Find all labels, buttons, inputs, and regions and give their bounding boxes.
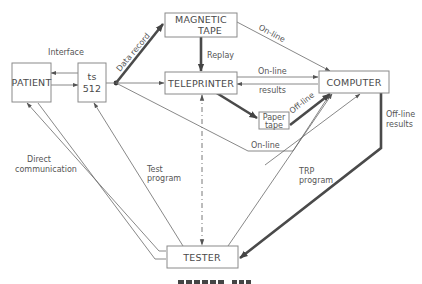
label-replay: Replay bbox=[207, 51, 234, 60]
label-online-tape: On-line bbox=[257, 23, 287, 44]
node-magnetic-tape: MAGNETIC TAPE bbox=[165, 13, 237, 37]
label-trp-program: program bbox=[299, 176, 333, 185]
edge-labels: Interface Data record Replay On-line On-… bbox=[15, 23, 415, 185]
figure-caption-clipped bbox=[178, 280, 251, 284]
node-label: COMPUTER bbox=[327, 77, 382, 88]
edge-tape-online bbox=[237, 22, 330, 71]
label-test: Test bbox=[146, 165, 163, 174]
label-offline-results: Off-line bbox=[386, 110, 415, 119]
node-label: tape bbox=[265, 121, 283, 130]
label-data-record: Data record bbox=[115, 31, 152, 73]
node-computer: COMPUTER bbox=[319, 71, 389, 93]
node-label: PATIENT bbox=[12, 77, 52, 88]
node-label: MAGNETIC bbox=[175, 14, 227, 25]
node-teleprinter: TELEPRINTER bbox=[165, 72, 237, 94]
label-offline-paper: Off-line bbox=[288, 90, 317, 115]
label-trp: TRP bbox=[298, 167, 314, 176]
label-online-teleprinter: On-line bbox=[258, 67, 287, 76]
label-results: results bbox=[259, 86, 286, 95]
node-label: ts bbox=[87, 71, 96, 82]
node-tester: TESTER bbox=[167, 246, 238, 268]
edge-data-record bbox=[116, 24, 163, 83]
node-label: TELEPRINTER bbox=[167, 78, 234, 89]
edges bbox=[27, 22, 381, 259]
system-diagram: PATIENT ts 512 MAGNETIC TAPE TELEPRINTER… bbox=[0, 0, 422, 284]
node-ts512: ts 512 bbox=[78, 63, 106, 102]
label-test-program: program bbox=[147, 174, 181, 183]
label-interface: Interface bbox=[48, 48, 84, 57]
label-online-bottom: On-line bbox=[251, 141, 280, 150]
label-offline-results-2: results bbox=[386, 120, 413, 129]
node-label: TESTER bbox=[182, 252, 221, 263]
edge-tester-to-patient bbox=[27, 103, 166, 251]
label-direct: Direct bbox=[27, 155, 51, 164]
node-paper-tape: Paper tape bbox=[259, 112, 289, 130]
node-patient: PATIENT bbox=[12, 63, 52, 102]
node-label: TAPE bbox=[197, 25, 222, 36]
label-communication: communication bbox=[15, 165, 77, 174]
edge-teleprinter-paper bbox=[215, 92, 257, 118]
node-label: 512 bbox=[83, 83, 102, 94]
